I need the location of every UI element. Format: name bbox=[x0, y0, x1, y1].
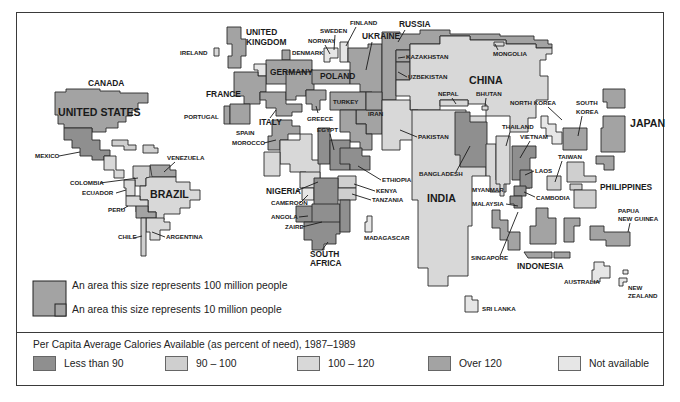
label-australia: AUSTRALIA bbox=[564, 278, 600, 285]
country-venezuela bbox=[150, 165, 176, 177]
label-france: FRANCE bbox=[206, 89, 241, 99]
label-myanmar: MYANMAR bbox=[472, 186, 504, 193]
label-peru: PERU bbox=[108, 206, 126, 213]
country-ireland bbox=[214, 48, 219, 56]
country-southern-africa bbox=[304, 222, 340, 250]
country-sahel bbox=[264, 152, 280, 176]
label-greece: GREECE bbox=[307, 115, 333, 122]
country-bhutan bbox=[482, 106, 488, 110]
country-mexico bbox=[64, 128, 110, 160]
legend-swatch-100-120 bbox=[297, 356, 320, 371]
legend-title: Per Capita Average Calories Available (a… bbox=[33, 339, 355, 350]
scale-small-label: An area this size represents 10 million … bbox=[72, 304, 282, 315]
label-chile: CHILE bbox=[118, 233, 137, 240]
label-sri-lanka: SRI LANKA bbox=[482, 305, 516, 312]
label-morocco: MOROCCO bbox=[232, 139, 265, 146]
legend-label-over-120: Over 120 bbox=[459, 358, 502, 369]
country-japan bbox=[603, 89, 625, 108]
label-canada: CANADA bbox=[88, 78, 124, 88]
country-philippines-3 bbox=[574, 190, 596, 208]
country-java bbox=[524, 252, 552, 258]
country-denmark bbox=[282, 50, 290, 60]
label-turkey: TURKEY bbox=[333, 98, 359, 105]
leader-line-kenya bbox=[354, 184, 375, 191]
label-germany: GERMANY bbox=[270, 67, 313, 77]
country-new-zealand-1 bbox=[623, 270, 628, 274]
label-papua-line1: PAPUA bbox=[618, 207, 640, 214]
country-south-korea bbox=[563, 128, 587, 150]
label-spain: SPAIN bbox=[236, 129, 255, 136]
legend-item-less-than-90: Less than 90 bbox=[33, 355, 124, 371]
label-egypt: EGYPT bbox=[317, 126, 338, 133]
leader-line-papua-new-guinea bbox=[628, 223, 630, 232]
country-central-america bbox=[104, 156, 124, 178]
legend-label-less-than-90: Less than 90 bbox=[64, 358, 124, 369]
label-ethiopia: ETHIOPIA bbox=[382, 176, 412, 183]
country-west-africa bbox=[280, 134, 320, 178]
label-norway: NORWAY bbox=[308, 37, 336, 44]
country-portugal bbox=[224, 106, 230, 124]
label-venezuela: VENEZUELA bbox=[167, 154, 205, 161]
label-mexico: MEXICO bbox=[35, 152, 60, 159]
label-japan: JAPAN bbox=[630, 117, 665, 129]
label-poland: POLAND bbox=[320, 71, 355, 81]
leader-line-mexico bbox=[59, 152, 80, 156]
country-caribbean-1 bbox=[112, 140, 136, 150]
label-angola: ANGOLA bbox=[271, 213, 298, 220]
label-vietnam: VIETNAM bbox=[520, 133, 548, 140]
label-mongolia: MONGOLIA bbox=[493, 50, 528, 57]
label-south-africa-line2: AFRICA bbox=[310, 258, 342, 268]
country-madagascar bbox=[365, 216, 372, 232]
country-egypt bbox=[318, 128, 330, 164]
country-japan-2 bbox=[601, 116, 625, 152]
label-sweden: SWEDEN bbox=[320, 27, 348, 34]
legend-label-90-100: 90 – 100 bbox=[196, 358, 236, 369]
label-pakistan: PAKISTAN bbox=[418, 133, 449, 140]
legend-swatch-over-120 bbox=[428, 356, 451, 371]
label-zaire: ZAIRE bbox=[285, 223, 304, 230]
country-caucasus bbox=[366, 92, 382, 110]
label-cambodia: CAMBODIA bbox=[536, 194, 571, 201]
country-malaysia bbox=[510, 196, 522, 208]
label-italy: ITALY bbox=[259, 117, 282, 127]
legend-swatch-90-100 bbox=[165, 356, 188, 371]
label-laos: LAOS bbox=[535, 167, 552, 174]
legend-swatch-not-available bbox=[558, 356, 581, 371]
legend-label-not-available: Not available bbox=[589, 358, 649, 369]
country-united-kingdom bbox=[227, 27, 246, 68]
label-kenya: KENYA bbox=[376, 187, 398, 194]
country-mozambique bbox=[340, 200, 350, 232]
country-taiwan bbox=[547, 176, 561, 190]
label-russia: RUSSIA bbox=[399, 19, 431, 29]
label-uzbekistan: UZBEKISTAN bbox=[408, 73, 448, 80]
label-papua-line2: NEW GUINEA bbox=[618, 215, 659, 222]
label-madagascar: MADAGASCAR bbox=[364, 234, 410, 241]
leader-line-finland bbox=[346, 27, 356, 46]
label-united-kingdom-line2: KINGDOM bbox=[246, 37, 287, 47]
country-nusa bbox=[554, 252, 570, 258]
label-bangladesh: BANGLADESH bbox=[419, 170, 463, 177]
label-bhutan: BHUTAN bbox=[476, 90, 502, 97]
scale-square-10m bbox=[55, 304, 66, 316]
country-chile bbox=[141, 218, 146, 256]
label-ukraine: UKRAINE bbox=[362, 31, 401, 41]
label-united-states: UNITED STATES bbox=[58, 106, 141, 118]
country-spain bbox=[230, 104, 250, 124]
country-scandinavia bbox=[324, 48, 338, 62]
label-new-zealand-line1: NEW bbox=[628, 284, 643, 291]
label-china: CHINA bbox=[469, 74, 503, 86]
label-ireland: IRELAND bbox=[180, 49, 208, 56]
label-colombia: COLOMBIA bbox=[70, 179, 104, 186]
country-kenya bbox=[338, 176, 356, 188]
label-indonesia: INDONESIA bbox=[517, 261, 564, 271]
label-thailand: THAILAND bbox=[502, 123, 534, 130]
legend-swatch-less-than-90 bbox=[33, 356, 56, 371]
legend-item-not-available: Not available bbox=[558, 355, 649, 371]
country-borneo bbox=[530, 208, 556, 244]
country-ecuador bbox=[124, 180, 135, 196]
label-portugal: PORTUGAL bbox=[184, 113, 219, 120]
country-sri-lanka bbox=[465, 296, 478, 312]
label-argentina: ARGENTINA bbox=[166, 233, 203, 240]
scale-large-label: An area this size represents 100 million… bbox=[72, 280, 287, 291]
legend-item-100-120: 100 – 120 bbox=[297, 355, 374, 371]
